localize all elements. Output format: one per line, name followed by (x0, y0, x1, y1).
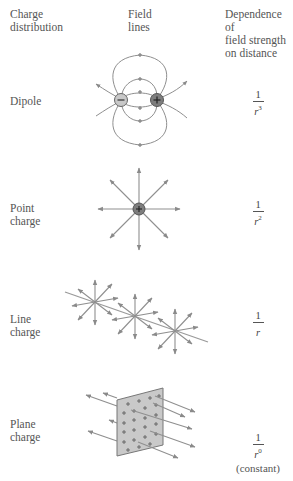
positive-charge-icon (151, 94, 164, 107)
dipole-diagram (96, 54, 187, 147)
plane-charge-diagram (86, 388, 195, 458)
field-diagrams (0, 0, 293, 481)
point-positive-charge-icon (133, 203, 145, 215)
line-charge-diagram (65, 280, 208, 354)
line-charge-field-star (152, 309, 198, 354)
negative-charge-icon (115, 94, 128, 107)
line-charge-field-star (72, 280, 118, 325)
line-charge-field-star (112, 294, 158, 339)
